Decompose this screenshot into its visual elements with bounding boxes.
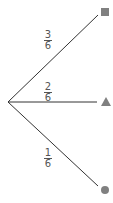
probability-label-square: 3 6 — [42, 30, 54, 51]
numerator: 1 — [42, 148, 54, 158]
denominator: 6 — [42, 93, 54, 103]
denominator: 6 — [42, 41, 54, 51]
branch-line-circle — [8, 102, 98, 186]
probability-label-circle: 1 6 — [42, 148, 54, 169]
numerator: 3 — [42, 30, 54, 40]
numerator: 2 — [42, 82, 54, 92]
denominator: 6 — [42, 159, 54, 169]
tree-diagram — [0, 0, 113, 203]
triangle-icon — [101, 97, 111, 106]
probability-label-triangle: 2 6 — [42, 82, 54, 103]
square-icon — [101, 8, 109, 16]
circle-icon — [101, 186, 109, 194]
